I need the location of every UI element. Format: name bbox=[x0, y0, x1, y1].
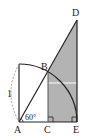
label-E: E bbox=[73, 124, 79, 135]
angle-label: 60° bbox=[25, 113, 36, 122]
side-length-label: 1 bbox=[7, 88, 12, 99]
label-C: C bbox=[44, 124, 51, 135]
length-brace-dashed bbox=[11, 64, 19, 122]
geometry-diagram: A C E B D 60° 1 bbox=[0, 0, 87, 136]
label-D: D bbox=[72, 7, 79, 18]
label-B: B bbox=[41, 61, 48, 72]
shaded-region bbox=[48, 20, 77, 122]
label-A: A bbox=[14, 124, 22, 135]
